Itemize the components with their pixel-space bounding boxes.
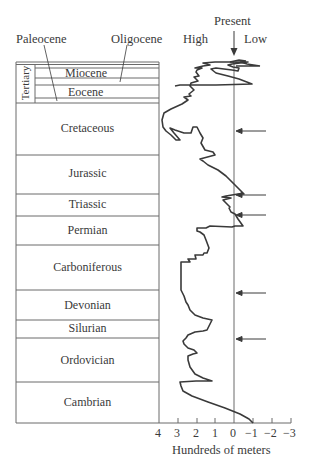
left-arrow-icon <box>236 193 266 198</box>
period-cambrian: Cambrian <box>16 395 159 410</box>
period-ordovician: Ordovician <box>16 353 159 368</box>
geologic-column <box>16 62 159 423</box>
period-carboniferous: Carboniferous <box>16 260 159 275</box>
sea-level-curve <box>162 62 253 423</box>
left-arrow-icon <box>236 213 266 218</box>
tick-label: 0 <box>230 426 236 441</box>
tertiary-label: Tertiary <box>19 62 31 104</box>
present-arrow-icon <box>231 31 238 56</box>
paleocene-label: Paleocene <box>16 32 67 47</box>
oligocene-label: Oligocene <box>111 32 162 47</box>
arrow-markers <box>236 129 266 342</box>
left-arrow-icon <box>236 129 266 134</box>
x-axis-label: Hundreds of meters <box>172 443 271 458</box>
eocene-label: Eocene <box>68 85 103 100</box>
miocene-label: Miocene <box>65 66 107 81</box>
tick-label: 3 <box>174 426 180 441</box>
period-jurassic: Jurassic <box>16 166 159 181</box>
tick-label: −1 <box>245 426 258 441</box>
period-cretaceous: Cretaceous <box>16 121 159 136</box>
paleocene-leader <box>44 45 57 101</box>
tick-label: 2 <box>193 426 199 441</box>
tick-label: −3 <box>283 426 296 441</box>
oligocene-leader <box>120 45 127 82</box>
period-silurian: Silurian <box>16 321 159 336</box>
high-label: High <box>183 32 208 47</box>
period-triassic: Triassic <box>16 197 159 212</box>
tick-label: −2 <box>264 426 277 441</box>
left-arrow-icon <box>236 337 266 342</box>
left-arrow-icon <box>236 291 266 296</box>
low-label: Low <box>244 32 267 47</box>
present-label: Present <box>214 14 251 29</box>
period-devonian: Devonian <box>16 298 159 313</box>
period-permian: Permian <box>16 223 159 238</box>
tick-label: 1 <box>212 426 218 441</box>
x-axis <box>159 418 291 423</box>
tick-label: 4 <box>155 426 161 441</box>
